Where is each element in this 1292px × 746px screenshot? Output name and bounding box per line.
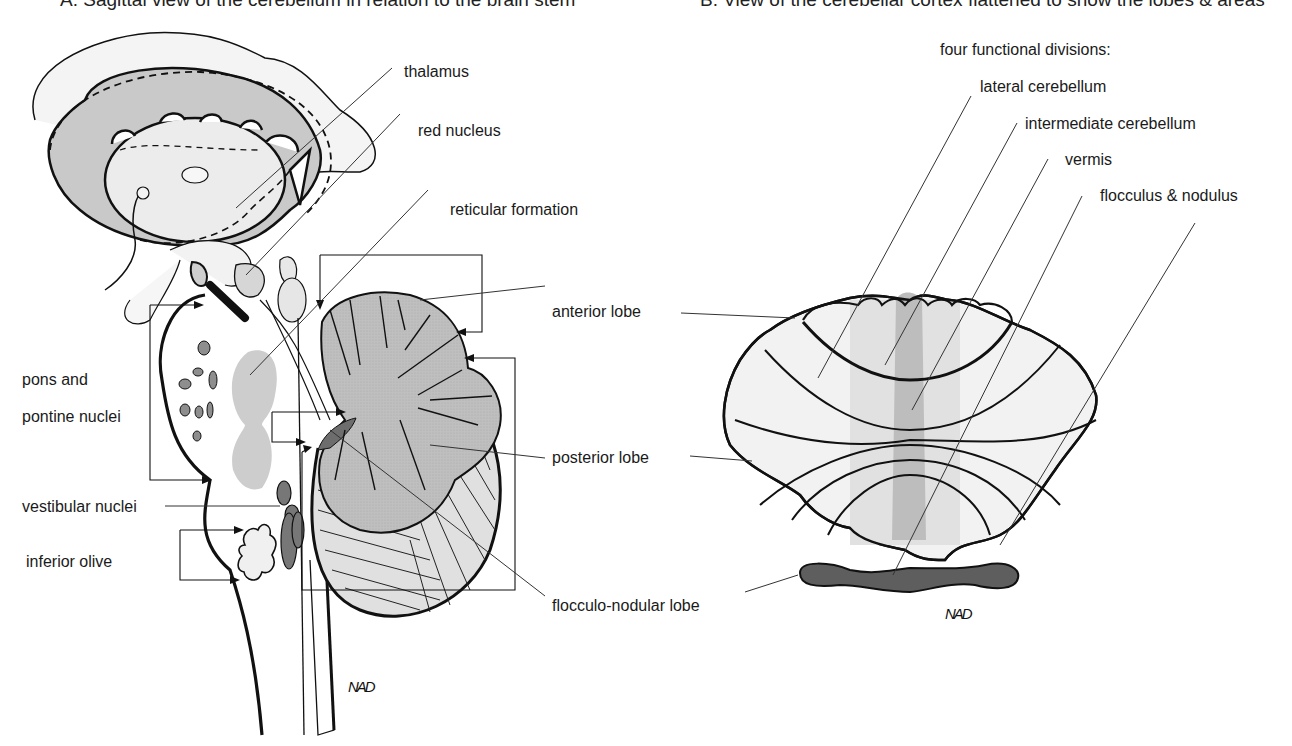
- label-anterior-lobe: anterior lobe: [552, 303, 641, 321]
- label-four-functional-divisions: four functional divisions:: [940, 41, 1111, 59]
- panel-b-drawing: [681, 96, 1195, 592]
- label-flocculonodular-lobe: flocculo-nodular lobe: [552, 597, 700, 615]
- label-reticular-formation: reticular formation: [450, 201, 578, 219]
- label-pons-line2: pontine nuclei: [22, 408, 121, 426]
- label-lateral-cerebellum: lateral cerebellum: [980, 78, 1106, 96]
- label-posterior-lobe: posterior lobe: [552, 449, 649, 467]
- signature-panel-a: NAD: [348, 678, 374, 695]
- anatomy-diagram: [0, 0, 1292, 746]
- label-pons-line1: pons and: [22, 371, 88, 389]
- label-inferior-olive: inferior olive: [26, 553, 112, 571]
- label-vermis: vermis: [1065, 151, 1112, 169]
- label-flocculus-nodulus: flocculus & nodulus: [1100, 187, 1238, 205]
- label-red-nucleus: red nucleus: [418, 122, 501, 140]
- label-intermediate-cerebellum: intermediate cerebellum: [1025, 115, 1196, 133]
- label-thalamus: thalamus: [404, 63, 469, 81]
- signature-panel-b: NAD: [945, 605, 971, 622]
- label-vestibular-nuclei: vestibular nuclei: [22, 498, 137, 516]
